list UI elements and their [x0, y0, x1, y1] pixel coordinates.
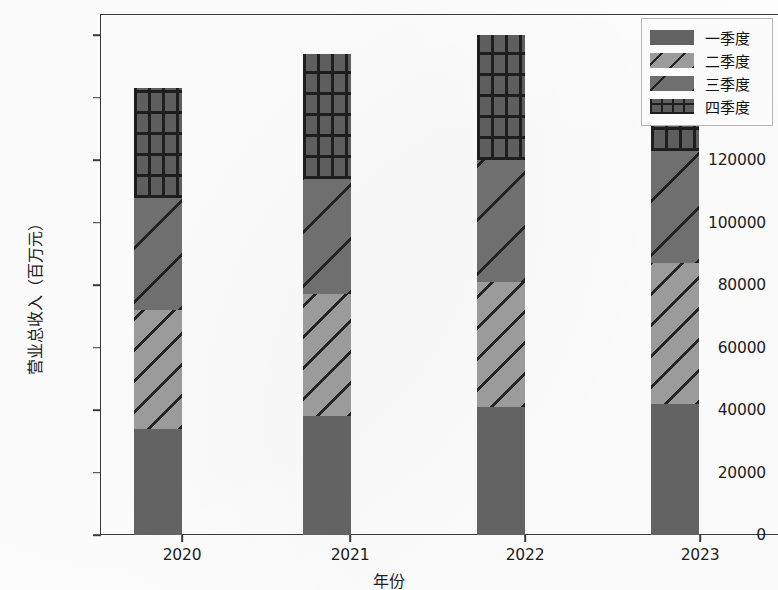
bar-segment [134, 429, 182, 535]
y-tick-label: 80000 [718, 276, 766, 294]
legend-swatch [650, 99, 694, 114]
bar-segment [303, 54, 351, 179]
bar-segment [303, 416, 351, 535]
bar-segment [477, 282, 525, 407]
legend-swatch [650, 30, 694, 45]
x-tick-mark [699, 535, 701, 542]
x-axis-title: 年份 [0, 568, 778, 590]
y-tick-label: 100000 [708, 214, 766, 232]
y-axis: 营业总收入（百万元） [0, 0, 100, 590]
bar-segment [134, 310, 182, 429]
legend-item[interactable]: 一季度 [650, 26, 764, 49]
bar-segment [477, 35, 525, 160]
y-tick-mark [93, 97, 101, 99]
legend-label: 三季度 [705, 73, 750, 94]
y-tick-mark [93, 409, 101, 411]
legend: 一季度二季度三季度四季度 [641, 18, 773, 126]
bar-segment [134, 198, 182, 311]
bar-segment [303, 294, 351, 416]
y-tick-mark [93, 34, 101, 36]
legend-item[interactable]: 三季度 [650, 72, 764, 95]
bar-segment [651, 151, 699, 264]
legend-label: 二季度 [705, 50, 750, 71]
bar-segment [477, 407, 525, 535]
legend-swatch [650, 53, 694, 68]
y-tick-label: 60000 [718, 339, 766, 357]
y-tick-mark [93, 347, 101, 349]
y-tick-label: 0 [756, 526, 766, 544]
bar-segment [134, 88, 182, 197]
legend-label: 一季度 [705, 27, 750, 48]
bar-segment [651, 263, 699, 404]
bar-segment [651, 404, 699, 535]
legend-item[interactable]: 二季度 [650, 49, 764, 72]
y-axis-title: 营业总收入（百万元） [22, 165, 46, 425]
y-tick-mark [93, 222, 101, 224]
bar-group [303, 0, 351, 590]
y-tick-mark [93, 534, 101, 536]
bar-segment [303, 179, 351, 295]
y-tick-label: 20000 [718, 464, 766, 482]
y-tick-label: 120000 [708, 151, 766, 169]
legend-swatch [650, 76, 694, 91]
legend-label: 四季度 [705, 96, 750, 117]
legend-item[interactable]: 四季度 [650, 95, 764, 118]
chart-canvas: 营业总收入（百万元） 02000040000600008000010000012… [0, 0, 778, 590]
bar-group [134, 0, 182, 590]
y-tick-mark [93, 284, 101, 286]
bar-group [477, 0, 525, 590]
y-tick-label: 40000 [718, 401, 766, 419]
y-tick-mark [93, 472, 101, 474]
y-tick-mark [93, 159, 101, 161]
bar-segment [477, 160, 525, 282]
